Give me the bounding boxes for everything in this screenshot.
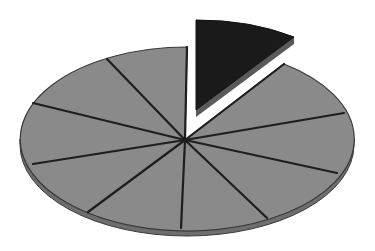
pie-chart-graphic [0, 0, 375, 251]
pie-figure [0, 0, 375, 251]
